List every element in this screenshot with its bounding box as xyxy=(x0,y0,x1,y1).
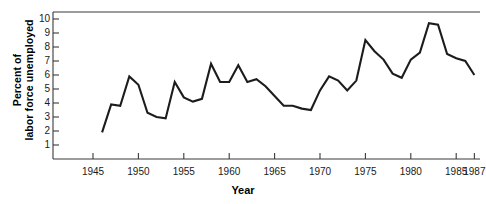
y-tick-label-2: 2 xyxy=(34,126,50,136)
y-tick-label-8: 8 xyxy=(34,42,50,52)
unemployment-line-chart: Percent of labor force unemployed 109876… xyxy=(0,0,486,204)
axes xyxy=(53,12,480,159)
data-series-line xyxy=(102,23,474,132)
x-tick-label-1945: 1945 xyxy=(82,167,104,177)
x-axis-label: Year xyxy=(0,184,486,196)
x-tick-label-1960: 1960 xyxy=(218,167,240,177)
y-tick-label-9: 9 xyxy=(34,28,50,38)
x-tick-label-1950: 1950 xyxy=(127,167,149,177)
x-tick-label-1965: 1965 xyxy=(263,167,285,177)
y-tick-label-7: 7 xyxy=(34,56,50,66)
y-tick-label-3: 3 xyxy=(34,112,50,122)
y-axis-label-line1: Percent of xyxy=(11,54,23,106)
y-axis-tick-labels: 10987654321 xyxy=(30,0,50,204)
y-tick-label-4: 4 xyxy=(34,98,50,108)
x-tick-label-1955: 1955 xyxy=(173,167,195,177)
x-tick-label-1975: 1975 xyxy=(354,167,376,177)
x-tick-label-1970: 1970 xyxy=(309,167,331,177)
y-tick-label-5: 5 xyxy=(34,84,50,94)
y-tick-label-1: 1 xyxy=(34,140,50,150)
y-tick-label-10: 10 xyxy=(34,14,50,24)
y-tick-label-6: 6 xyxy=(34,70,50,80)
x-tick-label-1980: 1980 xyxy=(400,167,422,177)
x-tick-label-1987: 1987 xyxy=(463,167,485,177)
